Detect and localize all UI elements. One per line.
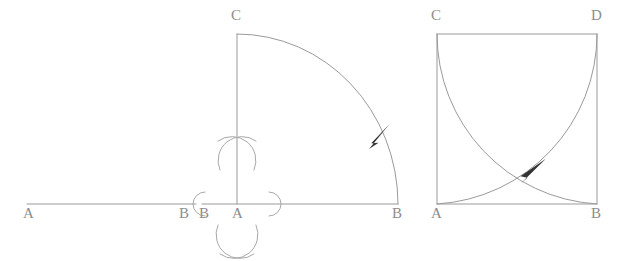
label-panel3-c: C [431,8,441,23]
label-panel2-c: C [231,8,241,23]
label-panel2-b-left: B [199,206,209,221]
label-panel2-a: A [232,206,243,221]
label-panel3-d: D [591,8,602,23]
construction-diagram: A B C B A B C D A B [0,0,621,261]
label-panel1-a: A [23,206,34,221]
figure-svg [0,0,621,261]
label-panel3-a: A [431,206,442,221]
label-panel2-b-right: B [392,206,402,221]
square-arc-direction-arrow [520,157,546,185]
panel-quarter-arc-bisector [193,34,398,258]
arc-centred-at-d [437,34,597,204]
label-panel3-b: B [591,206,601,221]
label-panel1-b: B [179,206,189,221]
panel-square-two-arcs [437,34,597,204]
quarter-arc-cb [237,34,398,204]
